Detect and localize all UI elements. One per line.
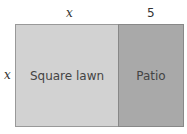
height-label: x — [4, 68, 11, 82]
square-lawn-label: Square lawn — [30, 69, 104, 83]
patio-label: Patio — [136, 69, 165, 83]
patio-width-label: 5 — [147, 6, 155, 20]
patio-region: Patio — [118, 24, 184, 127]
square-lawn-region: Square lawn — [15, 24, 118, 127]
lawn-width-label: x — [66, 6, 73, 20]
